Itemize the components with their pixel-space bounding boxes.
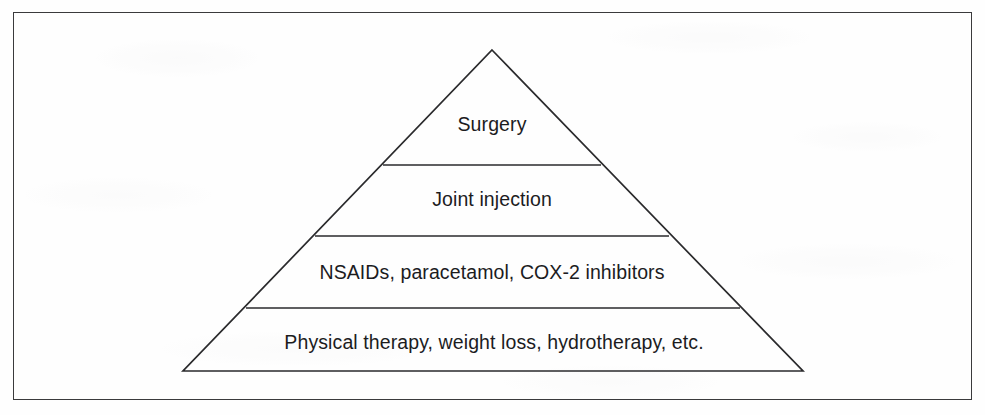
pyramid-tier-label-conservative-therapy: Physical therapy, weight loss, hydrother… — [284, 331, 703, 354]
pyramid-outline — [183, 50, 803, 371]
pyramid-tier-label-joint-injection: Joint injection — [432, 188, 552, 211]
pyramid-tier-label-medications: NSAIDs, paracetamol, COX-2 inhibitors — [319, 261, 664, 284]
pyramid-tier-label-surgery: Surgery — [458, 113, 527, 136]
scanned-page: Surgery Joint injection NSAIDs, paraceta… — [0, 0, 985, 415]
